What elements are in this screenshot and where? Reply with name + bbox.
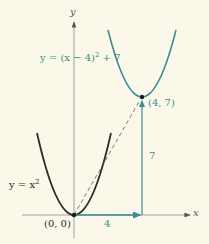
base-label-main: y = x [9,179,35,190]
translation-vector-dashed [74,100,140,215]
shifted-parabola-label: y = (x − 4)2 + 7 [40,51,121,63]
translation-diagram: y x y = (x − 4)2 + 7 y = x2 (4, 7) (0, 0… [0,0,209,244]
x-axis-label: x [193,207,199,218]
vertical-shift-label: 7 [149,150,155,161]
diagram-canvas [0,0,209,244]
shifted-label-main: y = (x − 4) [40,52,95,63]
point-vertex [140,95,144,99]
base-parabola-label: y = x2 [9,178,40,190]
vertex-point-label: (4, 7) [148,97,175,108]
origin-point-label: (0, 0) [44,218,71,229]
y-axis-label: y [70,6,76,17]
horizontal-shift-label: 4 [104,218,110,229]
shifted-parabola-curve [108,30,176,97]
base-label-exp: 2 [35,178,39,186]
point-origin [72,213,76,217]
shifted-label-tail: + 7 [99,52,120,63]
